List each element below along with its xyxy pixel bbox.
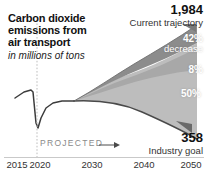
tick-label-2020: 2020: [29, 159, 50, 170]
current-trajectory-value: 1,984: [130, 3, 203, 17]
band-label-42: 42% decrease: [164, 33, 203, 55]
x-axis-tick-labels: 2015 2020 2030 2040 2050: [0, 159, 208, 177]
tick-label-2015: 2015: [6, 159, 27, 170]
tick-label-2030: 2030: [81, 159, 102, 170]
tick-label-2050: 2050: [180, 159, 201, 170]
band-label-8: 8%: [189, 64, 203, 75]
tick-label-2040: 2040: [133, 159, 154, 170]
band-label-8-value: 8%: [189, 64, 203, 75]
historical-line: [15, 90, 74, 128]
band-label-42-note: decrease: [164, 44, 203, 55]
projected-note: PROJECTED: [40, 138, 103, 148]
current-trajectory-callout: 1,984 Current trajectory: [130, 3, 203, 28]
industry-goal-value: 358: [149, 131, 203, 145]
arrow-right-icon: [99, 141, 121, 149]
industry-goal-callout: 358 Industry goal: [149, 131, 203, 156]
current-trajectory-caption: Current trajectory: [130, 17, 203, 28]
band-label-50-value: 50%: [181, 88, 201, 99]
industry-goal-caption: Industry goal: [149, 145, 203, 156]
band-label-50: 50%: [181, 88, 201, 99]
emissions-chart: Carbon dioxide emissions from air transp…: [0, 0, 208, 179]
